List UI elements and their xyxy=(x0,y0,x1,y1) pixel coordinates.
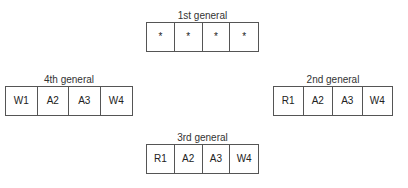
vector-cell: * xyxy=(147,23,175,51)
vector-cell: W1 xyxy=(6,87,38,115)
general-2: 2nd general R1 A2 A3 W4 xyxy=(273,73,393,116)
general-4: 4th general W1 A2 A3 W4 xyxy=(5,73,133,116)
vector-cell: A3 xyxy=(203,145,231,173)
general-3-vector: R1 A2 A3 W4 xyxy=(146,144,259,174)
vector-cell: R1 xyxy=(147,145,175,173)
vector-cell: W4 xyxy=(363,87,392,115)
general-2-label: 2nd general xyxy=(273,73,393,86)
vector-cell: A3 xyxy=(69,87,101,115)
general-1-vector: * * * * xyxy=(146,22,259,52)
vector-cell: W4 xyxy=(101,87,132,115)
general-3-label: 3rd general xyxy=(146,131,259,144)
vector-cell: A2 xyxy=(304,87,334,115)
vector-cell: W4 xyxy=(230,145,258,173)
general-2-vector: R1 A2 A3 W4 xyxy=(273,86,393,116)
vector-cell: A2 xyxy=(38,87,70,115)
vector-cell: * xyxy=(203,23,231,51)
vector-cell: * xyxy=(175,23,203,51)
vector-cell: * xyxy=(230,23,258,51)
general-3: 3rd general R1 A2 A3 W4 xyxy=(146,131,259,174)
general-4-label: 4th general xyxy=(5,73,133,86)
general-4-vector: W1 A2 A3 W4 xyxy=(5,86,133,116)
general-1: 1st general * * * * xyxy=(146,9,259,52)
vector-cell: A3 xyxy=(333,87,363,115)
general-1-label: 1st general xyxy=(146,9,259,22)
vector-cell: A2 xyxy=(175,145,203,173)
vector-cell: R1 xyxy=(274,87,304,115)
